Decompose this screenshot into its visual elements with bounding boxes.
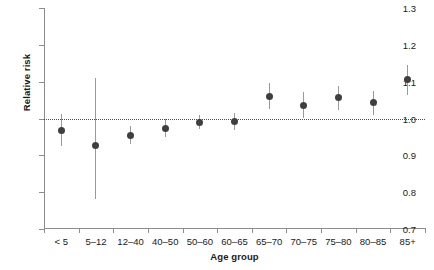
- error-bar: [95, 78, 96, 200]
- y-tick-mark: [39, 155, 44, 156]
- x-tick-mark: [44, 228, 45, 233]
- plot-area: 0.70.80.91.01.11.21.3 < 55–1212–4040–505…: [44, 8, 425, 229]
- data-point: [335, 94, 342, 101]
- x-tick-mark: [252, 228, 253, 233]
- data-point: [162, 125, 169, 132]
- y-tick-label: 0.7: [380, 224, 416, 235]
- y-tick-label: 0.9: [380, 150, 416, 161]
- data-point: [92, 142, 99, 149]
- y-tick-mark: [39, 119, 44, 120]
- data-point: [231, 118, 238, 125]
- data-point: [127, 132, 134, 139]
- x-axis-line: [44, 228, 425, 229]
- y-tick-label: 0.8: [380, 187, 416, 198]
- y-axis-title: Relative risk: [21, 13, 32, 153]
- y-tick-label: 1.2: [380, 39, 416, 50]
- x-tick-mark: [286, 228, 287, 233]
- x-axis-title: Age group: [44, 251, 425, 262]
- y-tick-mark: [39, 8, 44, 9]
- x-tick-mark: [217, 228, 218, 233]
- forest-plot-figure: Relative risk Age group 0.70.80.91.01.11…: [0, 0, 434, 270]
- x-tick-label: 85+: [378, 236, 434, 247]
- y-tick-mark: [39, 192, 44, 193]
- x-tick-mark: [321, 228, 322, 233]
- y-tick-mark: [39, 45, 44, 46]
- y-tick-mark: [39, 82, 44, 83]
- x-tick-mark: [183, 228, 184, 233]
- x-tick-mark: [390, 228, 391, 233]
- x-tick-mark: [425, 228, 426, 233]
- data-point: [266, 93, 273, 100]
- data-point: [58, 127, 65, 134]
- x-tick-mark: [356, 228, 357, 233]
- x-tick-mark: [113, 228, 114, 233]
- data-point: [196, 119, 203, 126]
- x-tick-mark: [79, 228, 80, 233]
- x-tick-mark: [148, 228, 149, 233]
- y-tick-label: 1.0: [380, 113, 416, 124]
- data-point: [370, 99, 377, 106]
- y-tick-label: 1.3: [380, 3, 416, 14]
- data-point: [300, 102, 307, 109]
